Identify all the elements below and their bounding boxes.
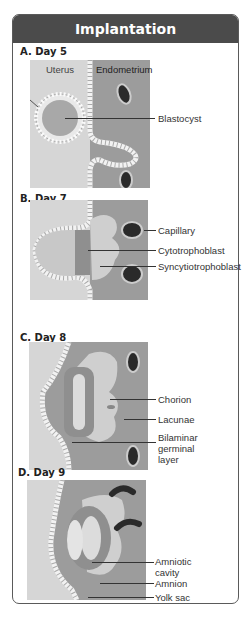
syncytiotrophoblast-label: Syncytiotrophoblast — [158, 261, 241, 272]
amniotic-cavity-leader — [92, 562, 154, 563]
panel-c-illustration — [29, 342, 148, 470]
capillary-leader — [144, 230, 156, 231]
lacunae-leader — [124, 419, 156, 420]
capillary-label: Capillary — [158, 225, 195, 236]
yolk-sac-label: Yolk sac — [155, 592, 190, 603]
yolk-sac-leader — [88, 597, 154, 598]
bilaminar-label: Bilaminar germinal layer — [158, 432, 198, 465]
syncytiotrophoblast-leader — [100, 266, 156, 267]
chorion-label: Chorion — [158, 394, 191, 405]
cytotrophoblast-label: Cytotrophoblast — [158, 245, 225, 256]
card-title: Implantation — [13, 15, 238, 43]
cytotrophoblast-leader — [88, 250, 156, 251]
panel-d-label: D. Day 9 — [18, 467, 65, 478]
amnion-leader — [100, 583, 154, 584]
amnion-label: Amnion — [155, 578, 187, 589]
panel-d-illustration — [27, 480, 146, 600]
amniotic-cavity-label: Amniotic cavity — [155, 556, 191, 578]
panel-a-label: A. Day 5 — [20, 46, 67, 57]
lacunae-label: Lacunae — [158, 414, 194, 425]
panel-a-illustration — [30, 60, 150, 188]
chorion-leader — [110, 399, 156, 400]
blastocyst-label: Blastocyst — [158, 113, 201, 124]
blastocyst-leader — [65, 118, 155, 119]
endometrium-label: Endometrium — [96, 64, 153, 75]
bilaminar-leader — [72, 442, 156, 443]
uterus-label: Uterus — [46, 64, 74, 75]
